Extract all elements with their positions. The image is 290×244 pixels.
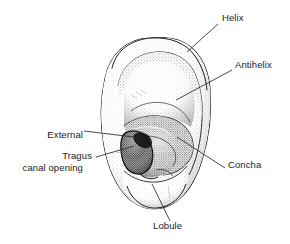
- label-antihelix: Antihelix: [235, 59, 272, 70]
- label-helix: Helix: [222, 12, 244, 23]
- ear-auricle-drawing: [101, 37, 210, 210]
- label-tragus: Tragus: [20, 150, 92, 161]
- label-external-canal-opening-line1: External: [13, 129, 83, 140]
- label-lobule: Lobule: [153, 220, 182, 231]
- partial-caption-artifact: .: [22, 234, 272, 240]
- label-concha: Concha: [228, 159, 261, 170]
- label-external-canal-opening-line2: canal opening: [13, 162, 83, 173]
- ear-anatomy-figure: Helix Antihelix External canal opening T…: [0, 0, 290, 244]
- leader-helix: [187, 24, 218, 52]
